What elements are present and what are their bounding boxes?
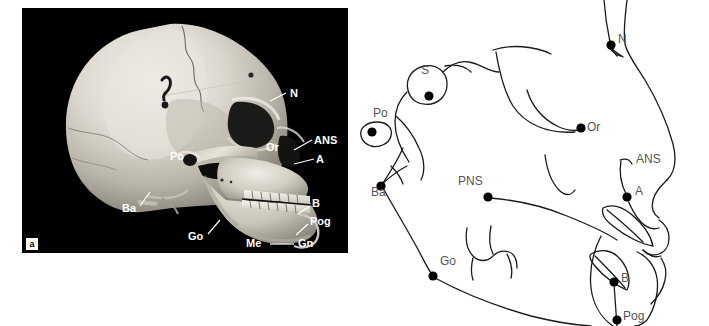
landmark-dot-S [424, 91, 433, 100]
anterior-nasal-spine [620, 159, 632, 164]
orbital-roof-curve [496, 52, 575, 132]
foramen-mark [230, 181, 233, 184]
photo-label-Me: Me [246, 238, 261, 249]
landmark-dot-Po [367, 127, 376, 136]
landmark-dot-Pog [612, 315, 621, 324]
photo-label-Pog: Pog [310, 216, 331, 227]
photo-label-Ba: Ba [122, 203, 136, 214]
photo-label-Po: Po [170, 151, 184, 162]
trace-label-B: B [621, 272, 629, 284]
trace-label-N: N [618, 33, 627, 45]
skull-photograph-panel: N ANS A Or Po Ba Go Me Gn B Pog a [22, 8, 348, 253]
trace-label-Po: Po [373, 107, 388, 119]
soft-tissue-lower-lip [651, 258, 666, 304]
landmark-dot-B [609, 277, 618, 286]
frontal-foramen [248, 72, 253, 77]
external-auditory-meatus [183, 154, 197, 166]
vault-foramen [162, 102, 169, 109]
inferior-mandibular-border [435, 278, 591, 326]
landmark-dot-N [606, 40, 615, 49]
foramen-mark [220, 178, 223, 181]
trace-label-Pog: Pog [623, 310, 644, 322]
soft-tissue-lip-commissure [643, 250, 661, 257]
trace-label-S: S [421, 64, 429, 76]
hyoid-body [490, 226, 493, 254]
hyoid-lesser-horn [472, 258, 474, 280]
anterior-cranial-floor [493, 47, 551, 54]
landmark-dot-Go [428, 271, 437, 280]
palatal-plane-line [490, 198, 617, 240]
photo-label-A: A [316, 154, 324, 165]
trace-label-Go: Go [440, 255, 456, 267]
basion-arrow-line [382, 166, 407, 184]
cephalometric-tracing-panel: S Po Ba Go PNS Or N ANS A B Pog [355, 0, 709, 326]
photo-label-Gn: Gn [298, 238, 313, 249]
hyoid-outline [466, 228, 517, 268]
trace-label-ANS: ANS [636, 153, 661, 165]
posterior-ramus-border [383, 188, 433, 276]
planum-sphenoidale [443, 61, 499, 72]
soft-tissue-upper-lip [643, 220, 669, 255]
landmark-dot-PNS [483, 192, 492, 201]
photo-label-B: B [312, 198, 320, 209]
photo-label-Go: Go [188, 231, 203, 242]
trace-label-Ba: Ba [371, 186, 386, 198]
skull-photo-graphic [22, 8, 348, 253]
photo-label-Or: Or [266, 142, 279, 153]
photo-label-N: N [290, 88, 298, 99]
panel-letter-a: a [26, 238, 38, 250]
anterior-maxilla-contour [620, 161, 626, 194]
cephalometric-landmarks-figure: N ANS A Or Po Ba Go Me Gn B Pog a [0, 0, 709, 326]
hyoid-greater-horn [507, 254, 512, 278]
landmark-dot-Or [576, 123, 585, 132]
trace-label-PNS: PNS [458, 175, 483, 187]
trace-label-A: A [635, 185, 643, 197]
photo-label-ANS: ANS [314, 135, 337, 146]
trace-label-Or: Or [587, 121, 600, 133]
soft-tissue-nose-base [652, 180, 667, 218]
pterygomaxillary-fissure [545, 155, 575, 195]
external-auditory-meatus-outline [361, 122, 392, 147]
landmark-dot-A [622, 192, 631, 201]
